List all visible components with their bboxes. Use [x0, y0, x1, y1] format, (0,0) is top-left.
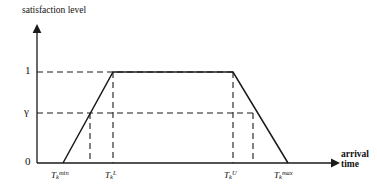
x-axis-title-line1: arrival [341, 149, 369, 159]
y-axis-arrow-icon [33, 24, 42, 33]
satisfaction-level-figure: satisfaction level arrival time 1 γ 0 Tk… [0, 0, 377, 193]
x-tick-label-tk-min: Tkmin [51, 170, 69, 181]
y-tick-label-zero: 0 [25, 156, 31, 168]
x-axis-arrow-icon [331, 159, 340, 168]
y-axis [33, 24, 42, 163]
x-tick-label-tk-lower: TkL [105, 170, 117, 181]
x-tick-sup: min [59, 169, 69, 176]
x-axis-title: arrival time [341, 150, 369, 170]
y-tick-label-gamma: γ [24, 106, 29, 118]
x-tick-sup: L [113, 169, 117, 176]
trapezoid-plot-svg [0, 0, 377, 193]
y-tick-label-one: 1 [25, 65, 31, 77]
x-tick-label-tk-max: Tkmax [274, 170, 293, 181]
y-axis-title: satisfaction level [22, 6, 86, 16]
x-tick-label-tk-upper: TkU [224, 170, 237, 181]
satisfaction-curve [63, 72, 288, 163]
x-axis [37, 159, 340, 168]
x-axis-title-line2: time [341, 160, 369, 170]
x-tick-sup: U [232, 169, 237, 176]
x-tick-sup: max [282, 169, 293, 176]
